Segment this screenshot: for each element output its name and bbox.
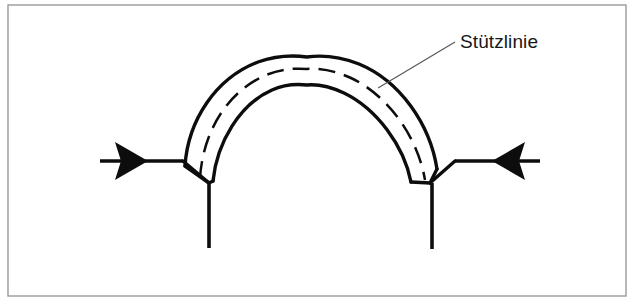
stuetzlinie-leader-line bbox=[378, 42, 455, 88]
arch-thrust-line-diagram: Stützlinie bbox=[0, 0, 636, 308]
stuetzlinie-label: Stützlinie bbox=[460, 31, 538, 52]
left-springing-joint bbox=[183, 161, 213, 183]
arch-intrados-curve bbox=[213, 85, 411, 182]
figure-page: Stützlinie bbox=[0, 0, 636, 308]
left-springing-outer-edge bbox=[185, 166, 209, 183]
